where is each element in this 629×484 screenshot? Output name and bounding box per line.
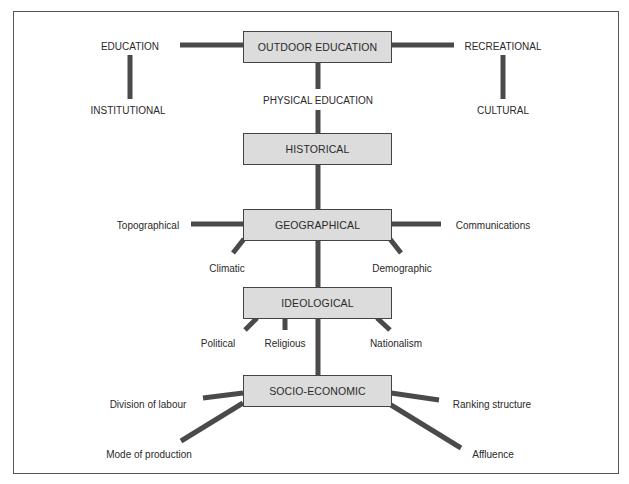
box-label: IDEOLOGICAL (281, 297, 353, 309)
box-label: SOCIO-ECONOMIC (269, 385, 365, 397)
label-recreational: RECREATIONAL (464, 41, 541, 52)
box-ideological: IDEOLOGICAL (243, 287, 392, 319)
label-cultural: CULTURAL (477, 105, 529, 116)
label-communications: Communications (456, 220, 530, 231)
label-political: Political (201, 338, 235, 349)
label-institutional: INSTITUTIONAL (90, 105, 165, 116)
box-socio-economic: SOCIO-ECONOMIC (243, 375, 392, 407)
box-geographical: GEOGRAPHICAL (243, 209, 392, 241)
connector-ranking-structure (391, 393, 439, 400)
label-religious: Religious (264, 338, 305, 349)
label-nationalism: Nationalism (370, 338, 422, 349)
box-label: OUTDOOR EDUCATION (258, 41, 377, 53)
box-outdoor-education: OUTDOOR EDUCATION (243, 31, 392, 63)
box-label: GEOGRAPHICAL (275, 219, 360, 231)
label-climatic: Climatic (209, 263, 245, 274)
connector-affluence (391, 405, 461, 448)
label-mode-of-production: Mode of production (106, 449, 192, 460)
connector-political (245, 318, 257, 330)
box-historical: HISTORICAL (243, 133, 392, 165)
connector-climatic (233, 239, 244, 253)
connector-nationalism (377, 318, 390, 330)
connector-demographic (390, 239, 401, 253)
connector-division-of-labour (203, 393, 243, 398)
label-demographic: Demographic (372, 263, 431, 274)
label-physical-education: PHYSICAL EDUCATION (263, 95, 373, 106)
box-label: HISTORICAL (286, 143, 350, 155)
connector-mode-of-production (181, 403, 243, 441)
label-ranking-structure: Ranking structure (453, 399, 531, 410)
label-education: EDUCATION (101, 41, 159, 52)
connector-lines (0, 0, 629, 484)
label-affluence: Affluence (472, 449, 514, 460)
label-division-of-labour: Division of labour (110, 399, 187, 410)
label-topographical: Topographical (117, 220, 179, 231)
